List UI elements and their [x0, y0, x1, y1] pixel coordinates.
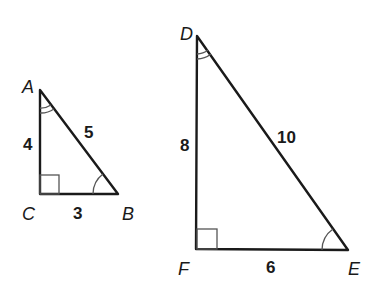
similar-triangles-figure: A C B 4 5 3 D F E 8 10 6 — [0, 0, 379, 306]
triangle-abc — [40, 90, 118, 194]
triangle-def — [196, 36, 348, 250]
side-length-ab: 5 — [84, 124, 93, 141]
side-length-fe: 6 — [266, 259, 275, 276]
angle-arc-a-outer — [40, 109, 54, 113]
right-angle-mark-f — [197, 229, 217, 249]
vertex-label-b: B — [122, 205, 134, 223]
vertex-label-a: A — [22, 78, 34, 96]
vertex-label-c: C — [22, 205, 35, 223]
side-length-ac: 4 — [23, 136, 32, 153]
vertex-label-e: E — [348, 260, 360, 278]
triangle-def-outline — [196, 36, 348, 250]
side-length-cb: 3 — [73, 205, 82, 222]
angle-arc-a-inner — [40, 105, 51, 108]
side-length-de: 10 — [277, 129, 296, 146]
triangle-abc-outline — [40, 90, 118, 194]
vertex-label-f: F — [178, 260, 189, 278]
angle-arc-b — [93, 174, 103, 194]
right-angle-mark-c — [40, 175, 59, 194]
triangles-drawing — [0, 0, 379, 306]
side-length-df: 8 — [180, 137, 189, 154]
angle-arc-e — [322, 229, 333, 250]
vertex-label-d: D — [180, 25, 193, 43]
angle-arc-d-outer — [197, 54, 211, 59]
angle-arc-d-inner — [197, 50, 208, 54]
